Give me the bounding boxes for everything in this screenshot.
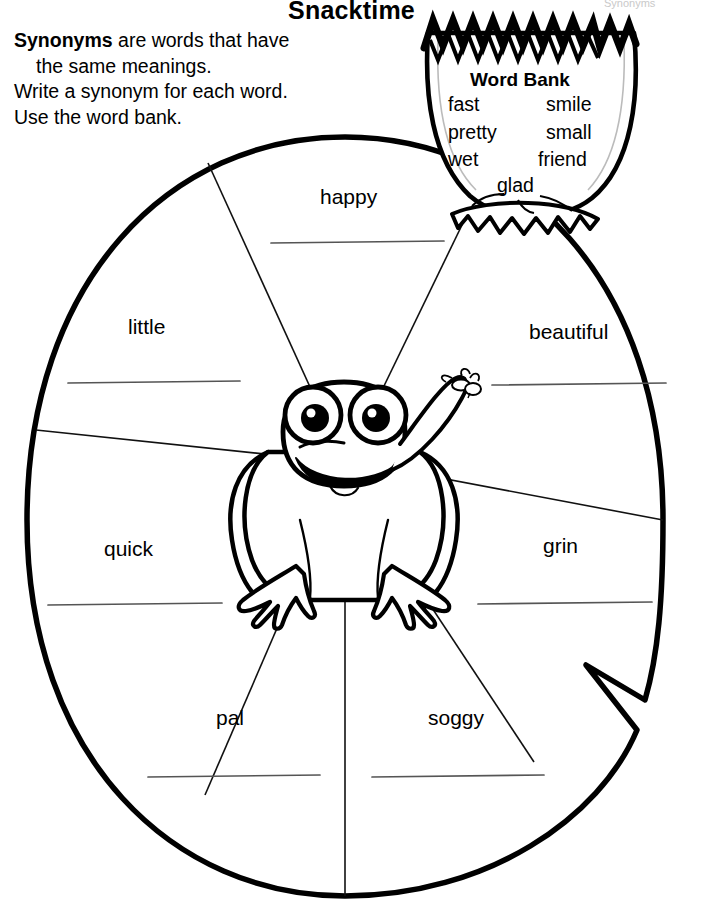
worksheet-page: Synonyms Snacktime Synonyms are words th… xyxy=(0,0,703,909)
wheel-label-little: little xyxy=(128,315,165,339)
word-bank-heading: Word Bank xyxy=(470,69,570,91)
wheel-label-soggy: soggy xyxy=(428,706,484,730)
word-bank-word-friend: friend xyxy=(538,148,587,171)
wheel-label-quick: quick xyxy=(104,537,153,561)
word-bank-word-small: small xyxy=(546,121,592,144)
word-bank-word-pretty: pretty xyxy=(448,121,497,144)
wheel-label-beautiful: beautiful xyxy=(529,320,608,344)
word-bank-word-wet: wet xyxy=(448,148,478,171)
word-bank-word-smile: smile xyxy=(546,93,592,116)
word-bank-word-glad: glad xyxy=(497,174,534,197)
word-bank-word-fast: fast xyxy=(448,93,479,116)
wheel-label-grin: grin xyxy=(543,534,578,558)
worksheet-artwork xyxy=(0,0,703,909)
wheel-label-happy: happy xyxy=(320,185,377,209)
wheel-label-pal: pal xyxy=(216,706,244,730)
